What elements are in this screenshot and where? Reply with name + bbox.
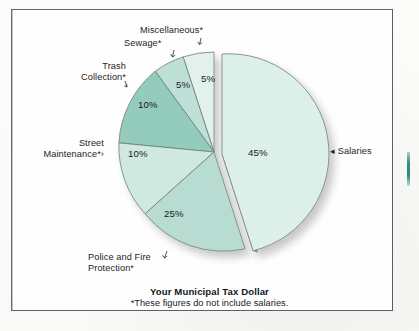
pct-label-salaries: 45% <box>248 147 268 158</box>
category-label-trash-collection-line1: Trash <box>102 61 126 71</box>
pie-slice-salaries-group <box>222 54 329 252</box>
category-label-street-maintenance-line2: Maintenance* <box>43 149 100 159</box>
chart-page: 45% 25% 10% 10% 5% 5% Miscellaneous* Sew… <box>0 0 419 331</box>
category-label-police-and-fire: Police and Fire Protection* <box>88 252 151 275</box>
category-label-salaries-text: Salaries <box>338 146 372 156</box>
category-label-police-and-fire-line2: Protection* <box>88 263 134 273</box>
category-label-salaries: ◂ Salaries <box>330 146 372 157</box>
leader-marker-salaries: ◂ <box>330 146 335 156</box>
pie-chart <box>0 0 419 331</box>
category-label-street-maintenance-line1: Street <box>79 138 104 148</box>
category-label-trash-collection: Trash Collection* <box>38 61 126 84</box>
pct-label-sewage: 5% <box>176 79 190 90</box>
pct-label-police-and-fire: 25% <box>164 208 184 219</box>
leader-arrow-sewage <box>171 50 176 57</box>
category-label-miscellaneous: Miscellaneous* <box>140 25 203 36</box>
pie-slice-salaries <box>222 54 329 251</box>
category-label-police-and-fire-line1: Police and Fire <box>88 252 151 262</box>
pct-label-trash-collection: 10% <box>138 99 158 110</box>
chart-footnote: *These figures do not include salaries. <box>0 298 419 308</box>
category-label-sewage: Sewage* <box>124 38 161 49</box>
leader-arrow-miscellaneous <box>198 38 203 45</box>
category-label-trash-collection-line2: Collection* <box>81 72 126 82</box>
leader-arrow-police <box>163 251 168 258</box>
leader-marker-street-maintenance: › <box>101 149 104 159</box>
pct-label-street-maintenance: 10% <box>128 148 148 159</box>
chart-title: Your Municipal Tax Dollar <box>0 286 419 297</box>
category-label-street-maintenance: Street Maintenance*› <box>12 138 104 161</box>
pct-label-miscellaneous: 5% <box>201 73 215 84</box>
